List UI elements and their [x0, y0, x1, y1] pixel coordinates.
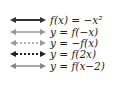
legend: f(x) = −x² y = f(−x) y = −f(x) y = f(2x)… — [0, 0, 117, 91]
legend-label: f(x) = −x² — [50, 14, 102, 26]
legend-item: f(x) = −x² — [0, 15, 117, 26]
double-arrow-icon — [10, 27, 46, 37]
legend-item: y = f(2x) — [0, 49, 117, 60]
legend-item: y = f(x−2) — [0, 61, 117, 72]
dotted-double-arrow-icon — [10, 38, 46, 48]
double-arrow-icon — [10, 61, 46, 71]
legend-label: y = f(2x) — [50, 48, 96, 60]
dotted-double-arrow-icon — [10, 49, 46, 59]
legend-label: y = f(x−2) — [50, 60, 105, 72]
double-arrow-icon — [10, 15, 46, 25]
